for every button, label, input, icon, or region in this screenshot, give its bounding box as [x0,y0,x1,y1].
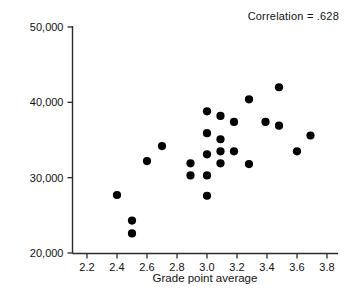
x-tick-label: 2.6 [139,261,154,273]
data-point [158,142,166,150]
data-point [203,107,211,115]
data-point [245,160,253,168]
axes [73,26,339,254]
y-tick-label: 30,000 [30,172,64,184]
data-point [216,147,224,155]
data-point [203,192,211,200]
data-point [186,159,194,167]
data-point [128,229,136,237]
data-point [216,159,224,167]
data-point [245,95,253,103]
data-point [275,122,283,130]
x-tick-label: 3.2 [229,261,244,273]
data-point [186,171,194,179]
x-tick-label: 3.8 [319,261,334,273]
data-point [216,135,224,143]
data-points [113,83,315,237]
scatter-plot-figure: Correlation = .628 Starting salary Grade… [0,0,349,300]
plot-area: 20,00030,00040,00050,000 2.22.42.62.83.0… [0,0,349,300]
data-point [203,129,211,137]
y-tick-label: 50,000 [30,21,64,33]
data-point [230,147,238,155]
data-point [261,118,269,126]
x-axis-ticks: 2.22.42.62.83.03.23.43.63.8 [79,254,334,273]
data-point [203,150,211,158]
x-tick-label: 2.4 [109,261,124,273]
y-tick-label: 40,000 [30,96,64,108]
x-tick-label: 2.8 [169,261,184,273]
data-point [128,217,136,225]
data-point [203,171,211,179]
y-axis-ticks: 20,00030,00040,00050,000 [30,21,73,259]
data-point [306,131,314,139]
data-point [293,147,301,155]
data-point [275,83,283,91]
x-tick-label: 3.6 [289,261,304,273]
y-tick-label: 20,000 [30,247,64,259]
data-point [143,157,151,165]
x-tick-label: 2.2 [79,261,94,273]
x-tick-label: 3.4 [259,261,274,273]
data-point [216,112,224,120]
data-point [230,118,238,126]
x-tick-label: 3.0 [199,261,214,273]
data-point [113,191,121,199]
